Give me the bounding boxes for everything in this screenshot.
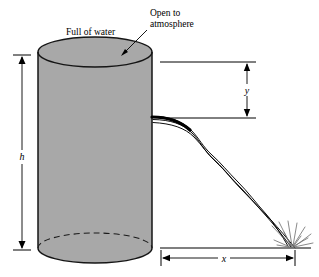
tank-body-fill xyxy=(38,52,152,263)
tank-cylinder xyxy=(38,37,152,263)
dimension-h-label: h xyxy=(20,151,25,162)
dimension-y: y xyxy=(244,63,250,117)
full-of-water-label: Full of water xyxy=(66,27,116,37)
jet-strand-1 xyxy=(152,117,288,247)
diagram-canvas: Full of water Open to atmosphere h xyxy=(0,0,319,277)
dimension-x-label: x xyxy=(221,253,227,264)
dimension-h-arrow-top xyxy=(19,56,26,64)
open-to-atmosphere-label-line2: atmosphere xyxy=(150,19,194,29)
splash-spray xyxy=(272,221,313,247)
dimension-y-arrow-bottom xyxy=(244,109,250,117)
dimension-h: h xyxy=(13,55,31,250)
dimension-y-label: y xyxy=(244,85,250,96)
dimension-x-arrow-right xyxy=(286,255,294,261)
dimension-x: x xyxy=(161,250,295,266)
water-tank-diagram: Full of water Open to atmosphere h xyxy=(0,0,319,277)
water-jet-stream xyxy=(152,117,295,249)
dimension-h-arrow-bottom xyxy=(19,241,26,249)
jet-strand-3 xyxy=(153,123,295,249)
open-to-atmosphere-label-line1: Open to xyxy=(150,8,181,18)
jet-strand-2 xyxy=(153,120,291,248)
dimension-x-arrow-left xyxy=(162,255,170,261)
dimension-y-arrow-top xyxy=(244,63,250,71)
